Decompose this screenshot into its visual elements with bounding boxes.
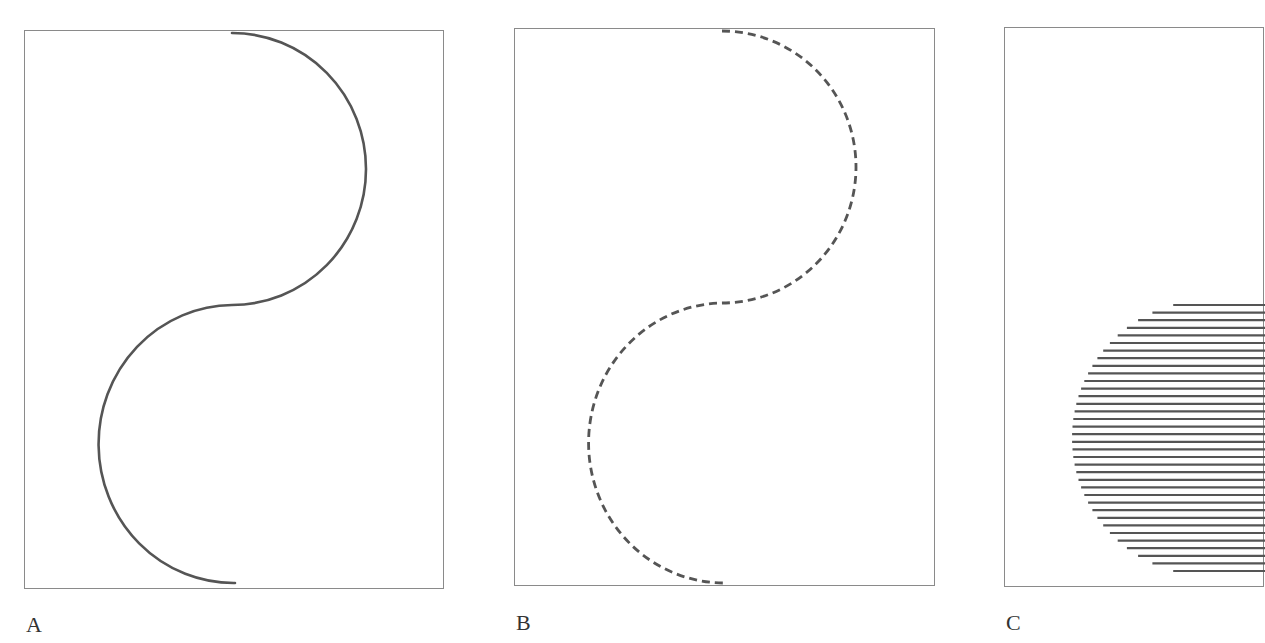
dashed-s-curve bbox=[515, 29, 936, 587]
panel-c bbox=[1004, 27, 1264, 587]
solid-s-curve bbox=[25, 31, 445, 590]
panel-label-b: B bbox=[516, 610, 531, 636]
hatched-semicircle bbox=[1005, 28, 1265, 588]
panel-a bbox=[24, 30, 444, 589]
panel-label-c: C bbox=[1006, 610, 1021, 636]
panel-label-a: A bbox=[26, 612, 42, 638]
panel-b bbox=[514, 28, 935, 586]
